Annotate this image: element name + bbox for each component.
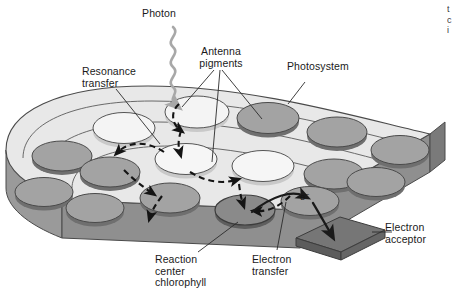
disc-light xyxy=(232,151,294,186)
disc-light xyxy=(155,144,217,179)
disc-dark xyxy=(15,178,73,211)
clipped-edge-text: t c i xyxy=(447,4,463,66)
label-photosystem: Photosystem xyxy=(287,61,373,73)
reaction-center-chlorophyll-disc xyxy=(215,195,275,229)
edge-text-line-1: t xyxy=(447,4,463,15)
edge-text-line-2: c xyxy=(447,15,463,26)
label-antenna-pigments: Antenna pigments xyxy=(190,46,252,69)
edge-text-line-3: i xyxy=(447,25,463,36)
electron-charge-sign: – xyxy=(305,190,309,197)
leader-photosystem xyxy=(288,82,305,104)
disc-dark xyxy=(371,136,429,169)
electron-symbol: e– xyxy=(300,190,309,202)
disc-dark xyxy=(237,103,299,138)
disc-dark xyxy=(347,168,405,201)
slab-side-right xyxy=(430,122,445,172)
label-resonance-transfer: Resonance transfer xyxy=(82,66,160,89)
disc-light xyxy=(93,113,155,148)
disc-dark xyxy=(281,187,339,220)
disc-dark xyxy=(307,117,367,151)
label-reaction-center-chlorophyll: Reaction center chlorophyll xyxy=(155,254,245,289)
disc-dark xyxy=(66,194,124,227)
label-photon: Photon xyxy=(122,8,196,20)
disc-dark xyxy=(140,183,200,217)
label-electron-acceptor: Electron acceptor xyxy=(385,222,461,245)
photosystem-diagram: Photon Resonance transfer Antenna pigmen… xyxy=(0,0,463,302)
disc-light xyxy=(165,96,229,132)
label-electron-transfer: Electron transfer xyxy=(252,254,322,277)
disc-dark xyxy=(80,157,140,191)
